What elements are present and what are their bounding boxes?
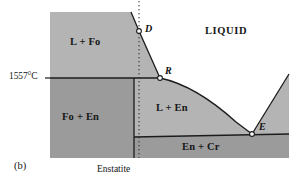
phase-diagram-figure: L + Fo Fo + En L + En En + Cr LIQUID D R…: [0, 0, 298, 181]
region-label-l-plus-fo: L + Fo: [70, 37, 101, 48]
point-label-e: E: [259, 122, 266, 132]
region-label-liquid: LIQUID: [205, 26, 247, 37]
region-label-fo-plus-en: Fo + En: [62, 112, 99, 123]
region-label-l-plus-en: L + En: [156, 103, 188, 114]
panel-label: (b): [14, 161, 26, 172]
point-label-r: R: [165, 66, 172, 76]
temperature-tick-label: 1557°C: [9, 72, 38, 82]
point-label-d: D: [145, 24, 152, 34]
axis-label-enstatite: Enstatite: [97, 165, 130, 175]
point-marker-r: [158, 76, 163, 81]
point-marker-d: [137, 29, 142, 34]
region-label-en-plus-cr: En + Cr: [182, 142, 220, 153]
point-marker-e: [250, 132, 255, 137]
